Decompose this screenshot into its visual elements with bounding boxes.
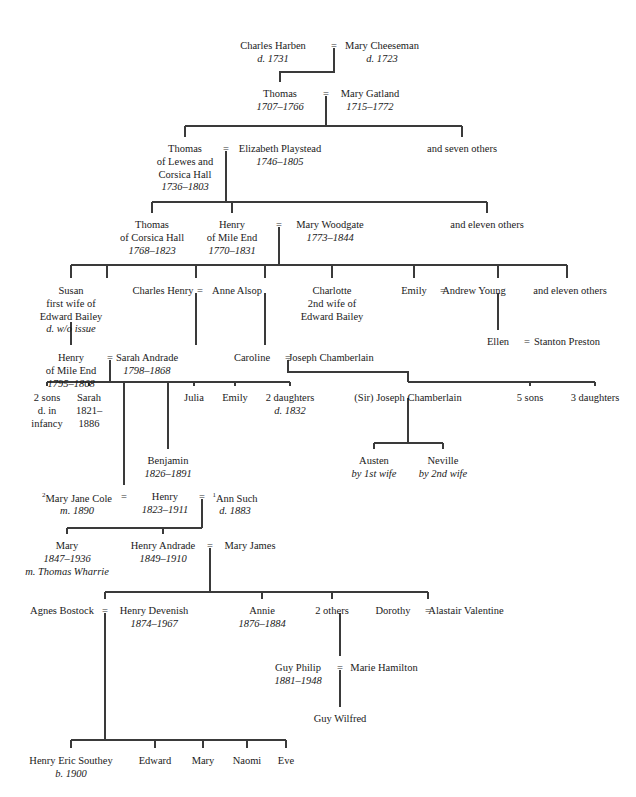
marriage-symbol-m-henry-woodgate: = — [276, 219, 282, 230]
person-name: Alastair Valentine — [428, 605, 503, 618]
person-name: Henry — [142, 491, 188, 504]
person-name: Charles Henry — [133, 285, 194, 298]
person-name: Mary Woodgate — [296, 219, 364, 232]
marriage-symbol-m-emily-andrew: = — [440, 285, 446, 296]
person-name: Dorothy — [376, 605, 411, 618]
person-name: Emily — [222, 392, 248, 405]
person-name: Thomas — [157, 143, 214, 156]
person-name: Henry — [46, 352, 97, 365]
person-detail-line: first wife of — [40, 298, 103, 311]
person-julia: Julia — [184, 392, 204, 405]
person-dates: m. 1890 — [42, 505, 112, 518]
person-name: Marie Hamilton — [350, 662, 417, 675]
person-two-others: 2 others — [315, 605, 349, 618]
person-name: Charlotte — [301, 285, 364, 298]
person-benjamin: Benjamin1826–1891 — [144, 455, 191, 481]
person-detail-line: 1821– — [76, 405, 102, 418]
marriage-symbol-m-charlesh-anne: = — [197, 285, 203, 296]
person-name: Charles Harben — [240, 40, 306, 53]
person-name: Mary James — [224, 540, 275, 553]
person-and-eleven-others-b: and eleven others — [533, 285, 606, 298]
person-dates: by 2nd wife — [419, 468, 467, 481]
person-guy-wilfred: Guy Wilfred — [314, 713, 367, 726]
person-name: Henry — [207, 219, 258, 232]
person-dates: 1770–1831 — [207, 245, 258, 258]
person-name: Benjamin — [144, 455, 191, 468]
person-dates: 1736–1803 — [157, 181, 214, 194]
marriage-symbol-m-ellen-stanton: = — [524, 336, 530, 347]
person-thomas-lewes: Thomasof Lewes andCorsica Hall1736–1803 — [157, 143, 214, 194]
person-name: Henry Andrade — [131, 540, 195, 553]
person-name: Austen — [352, 455, 397, 468]
person-name: (Sir) Joseph Chamberlain — [354, 392, 461, 405]
person-name: Stanton Preston — [534, 336, 600, 349]
person-three-daughters: 3 daughters — [571, 392, 620, 405]
person-name: Thomas — [256, 88, 303, 101]
person-alastair-valentine: Alastair Valentine — [428, 605, 503, 618]
person-detail-line: of Mile End — [207, 232, 258, 245]
person-mary-woodgate: Mary Woodgate1773–1844 — [296, 219, 364, 245]
person-dates: 1849–1910 — [131, 553, 195, 566]
person-name: Susan — [40, 285, 103, 298]
person-name: and eleven others — [450, 219, 523, 232]
person-name: Sarah — [76, 392, 102, 405]
person-name: Mary Cheeseman — [345, 40, 419, 53]
person-detail-line: Edward Bailey — [40, 311, 103, 324]
person-detail-line: 2nd wife of — [301, 298, 364, 311]
person-name: Andrew Young — [442, 285, 506, 298]
person-henry-1823: Henry1823–1911 — [142, 491, 188, 517]
person-name: and eleven others — [533, 285, 606, 298]
person-dates: d. 1731 — [240, 53, 306, 66]
person-name: Eve — [278, 755, 294, 768]
person-charles-henry: Charles Henry — [133, 285, 194, 298]
person-austen: Austenby 1st wife — [352, 455, 397, 481]
marriage-symbol-m-dorothy-alastair: = — [425, 605, 431, 616]
person-name: Naomi — [233, 755, 262, 768]
person-susan: Susanfirst wife ofEdward Baileyd. w/o is… — [40, 285, 103, 336]
person-mary-cheeseman: Mary Cheesemand. 1723 — [345, 40, 419, 66]
person-detail-line: 1886 — [76, 418, 102, 431]
person-name: 1Ann Such — [212, 491, 257, 505]
marriage-order-superscript: 1 — [212, 491, 216, 499]
person-mary-1847: Mary1847–1936m. Thomas Wharrie — [25, 540, 109, 578]
person-dates: 1847–1936 — [25, 553, 109, 566]
person-mary-james: Mary James — [224, 540, 275, 553]
person-dates: 1823–1911 — [142, 504, 188, 517]
person-mary-gatland: Mary Gatland1715–1772 — [341, 88, 400, 114]
person-agnes-bostock: Agnes Bostock — [30, 605, 94, 618]
person-emily-young: Emily — [401, 285, 427, 298]
person-thomas-corsica: Thomasof Corsica Hall1768–1823 — [120, 219, 184, 257]
marriage-order-superscript: 2 — [42, 491, 46, 499]
person-thomas-1707: Thomas1707–1766 — [256, 88, 303, 114]
person-caroline: Caroline — [234, 352, 270, 365]
person-dates: 1746–1805 — [239, 156, 322, 169]
person-name: and seven others — [427, 143, 497, 156]
person-naomi: Naomi — [233, 755, 262, 768]
person-two-sons: 2 sonsd. ininfancy — [31, 392, 63, 430]
marriage-symbol-m-henry-sarah: = — [107, 352, 113, 363]
person-dates: d. 1832 — [266, 405, 315, 418]
person-dates: 1768–1823 — [120, 245, 184, 258]
person-name: Joseph Chamberlain — [288, 352, 373, 365]
person-name: 2 daughters — [266, 392, 315, 405]
marriage-symbol-m-charles-mary: = — [331, 40, 337, 51]
person-emily-2: Emily — [222, 392, 248, 405]
person-dates: d. w/o issue — [40, 323, 103, 336]
person-name: Sarah Andrade — [116, 352, 178, 365]
person-dates: 1773–1844 — [296, 232, 364, 245]
marriage-symbol-m-agnes-devenish: = — [102, 605, 108, 616]
person-name: 2 sons — [31, 392, 63, 405]
person-five-sons: 5 sons — [517, 392, 544, 405]
person-name: Ellen — [487, 336, 509, 349]
person-name: Henry Devenish — [120, 605, 189, 618]
person-dates: 1876–1884 — [238, 618, 285, 631]
person-edward: Edward — [139, 755, 172, 768]
person-name: Thomas — [120, 219, 184, 232]
person-name: 3 daughters — [571, 392, 620, 405]
person-henry-mile-end-1770: Henryof Mile End1770–1831 — [207, 219, 258, 257]
person-guy-philip: Guy Philip1881–1948 — [274, 662, 321, 688]
person-note: m. Thomas Wharrie — [25, 566, 109, 579]
person-henry-mile-end-1795: Henryof Mile End1795–1868 — [46, 352, 97, 390]
person-name: Emily — [401, 285, 427, 298]
person-name: Elizabeth Playstead — [239, 143, 322, 156]
